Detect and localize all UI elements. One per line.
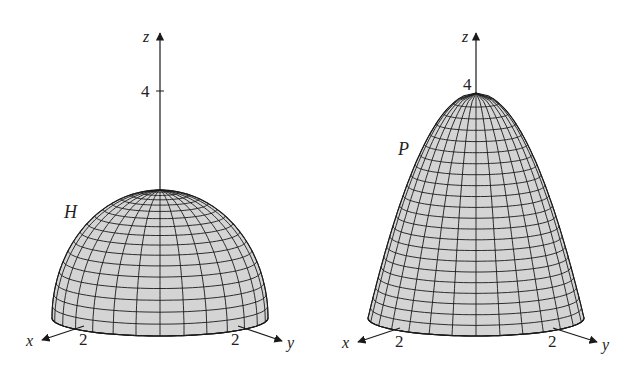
paraboloid-surface [368,93,584,336]
z-tick-label: 4 [463,75,472,94]
z-tick-label: 4 [141,82,150,101]
hemisphere-surface [52,190,268,336]
z-axis: 4 z [141,28,164,190]
panel-paraboloid: 4 z x 2 y 2 P [341,28,610,354]
z-axis-label: z [142,28,150,45]
surface-label-h: H [63,202,78,222]
figure-canvas: 4 z x 2 y 2 H 4 z x 2 y 2 [0,0,636,368]
x-axis: x 2 [341,328,404,351]
surface-label-p: P [397,139,409,159]
x-tick-label: 2 [79,330,88,349]
x-axis-label: x [341,334,349,351]
y-axis: y 2 [548,328,610,354]
z-axis-label: z [461,28,469,45]
x-axis-label: x [25,332,33,349]
z-axis: 4 z [461,28,476,94]
x-tick-label: 2 [395,332,404,351]
x-axis: x 2 [25,326,88,349]
y-tick-label: 2 [548,332,557,351]
y-axis-label: y [600,336,610,354]
panel-hemisphere: 4 z x 2 y 2 H [25,28,295,352]
y-axis-label: y [285,334,295,352]
y-tick-label: 2 [231,330,240,349]
